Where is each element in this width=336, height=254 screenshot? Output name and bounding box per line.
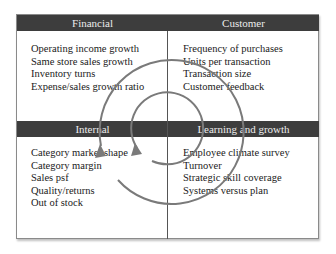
customer-header: Customer (168, 15, 319, 31)
internal-header: Internal (17, 121, 168, 137)
learning-growth-metrics-list: Employee climate survey Turnover Strateg… (183, 147, 290, 197)
list-item: Operating income growth (31, 43, 144, 56)
list-item: Category market shape (31, 147, 128, 160)
customer-metrics-list: Frequency of purchases Units per transac… (183, 43, 283, 93)
list-item: Transaction size (183, 68, 283, 81)
list-item: Category margin (31, 160, 128, 173)
internal-metrics-list: Category market shape Category margin Sa… (31, 147, 128, 210)
list-item: Sales psf (31, 172, 128, 185)
list-item: Employee climate survey (183, 147, 290, 160)
list-item: Frequency of purchases (183, 43, 283, 56)
vertical-divider (167, 31, 168, 239)
learning-growth-header: Learning and growth (168, 121, 319, 137)
financial-metrics-list: Operating income growth Same store sales… (31, 43, 144, 93)
list-item: Out of stock (31, 197, 128, 210)
list-item: Inventory turns (31, 68, 144, 81)
list-item: Customer feedback (183, 81, 283, 94)
list-item: Quality/returns (31, 185, 128, 198)
balanced-scorecard-frame: Financial Customer Internal Learning and… (16, 14, 319, 239)
list-item: Expense/sales growth ratio (31, 81, 144, 94)
list-item: Turnover (183, 160, 290, 173)
list-item: Same store sales growth (31, 56, 144, 69)
list-item: Units per transaction (183, 56, 283, 69)
list-item: Strategic skill coverage (183, 172, 290, 185)
list-item: Systems versus plan (183, 185, 290, 198)
financial-header: Financial (17, 15, 168, 31)
